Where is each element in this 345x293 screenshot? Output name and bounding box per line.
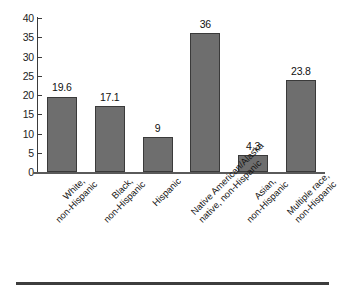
x-axis-category-label: Hispanic <box>142 176 184 218</box>
x-axis-category-label: Black, non-Hispanic <box>94 176 144 226</box>
bar-value-label: 19.6 <box>38 82 86 93</box>
y-axis-tick-label: 10 <box>6 129 34 140</box>
y-axis-labels: 40 35 30 25 20 15 10 5 0 <box>0 0 34 293</box>
bar-chart-figure: 40 35 30 25 20 15 10 5 0 19.6 17.1 9 36 <box>0 0 345 293</box>
y-axis-tick-label: 40 <box>6 13 34 24</box>
y-axis-tick-label: 20 <box>6 90 34 101</box>
bar-value-label: 9 <box>134 123 182 134</box>
bar-slot: 23.8 <box>277 18 325 172</box>
bar[interactable] <box>47 97 77 172</box>
plot-area: 19.6 17.1 9 36 4.3 23.8 <box>38 18 325 172</box>
bar-slot: 9 <box>134 18 182 172</box>
bar[interactable] <box>190 33 220 172</box>
x-axis-labels: White, non-Hispanic Black, non-Hispanic … <box>38 176 325 276</box>
y-axis-tick-label: 15 <box>6 109 34 120</box>
bar-slot: 17.1 <box>86 18 134 172</box>
bar-slot: 36 <box>181 18 229 172</box>
bar-value-label: 36 <box>181 19 229 30</box>
bottom-divider-rule <box>16 282 329 285</box>
y-axis-tick-label: 35 <box>6 32 34 43</box>
bar-slot: 19.6 <box>38 18 86 172</box>
y-axis-tick-label: 25 <box>6 71 34 82</box>
x-axis-category-label: White, non-Hispanic <box>46 176 96 226</box>
bar[interactable] <box>143 137 173 172</box>
bar-value-label: 23.8 <box>277 66 325 77</box>
x-axis-category-label: Multiple race, non-Hispanic <box>285 176 335 226</box>
y-axis-tick-label: 30 <box>6 52 34 63</box>
bar[interactable] <box>286 80 316 172</box>
y-axis-tick-label: 0 <box>6 167 34 178</box>
bar-value-label: 17.1 <box>86 92 134 103</box>
bar[interactable] <box>95 106 125 172</box>
x-axis-line <box>33 172 325 174</box>
x-axis-category-label: Native American/Alaska native, non-Hispa… <box>189 176 239 226</box>
y-axis-tick-label: 5 <box>6 148 34 159</box>
x-axis-category-line: Hispanic <box>142 176 184 218</box>
